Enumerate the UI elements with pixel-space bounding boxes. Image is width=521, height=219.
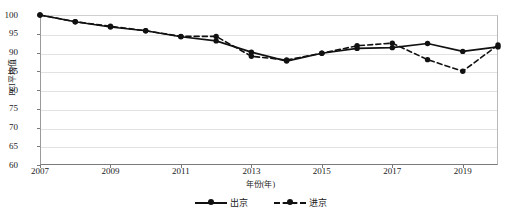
- x-tick-mark: [40, 165, 41, 168]
- legend-item-2[interactable]: 进京: [274, 196, 327, 209]
- x-axis-title: 年份(年): [0, 178, 521, 189]
- gridline: [41, 91, 497, 92]
- gridline: [41, 35, 497, 36]
- x-tick-mark: [463, 165, 464, 168]
- plot-area: [40, 15, 498, 165]
- y-tick-label: 65: [0, 142, 18, 151]
- gridline: [41, 147, 497, 148]
- x-tick-label: 2009: [88, 167, 132, 176]
- y-tick-label: 80: [0, 86, 18, 95]
- gridline: [41, 110, 497, 111]
- y-tick-label: 95: [0, 29, 18, 38]
- y-tick-mark: [37, 71, 40, 72]
- y-tick-mark: [37, 15, 40, 16]
- x-tick-mark: [110, 165, 111, 168]
- legend-label: 出京: [230, 196, 248, 209]
- x-tick-label: 2017: [370, 167, 414, 176]
- y-tick-mark: [37, 109, 40, 110]
- x-tick-mark: [392, 165, 393, 168]
- x-tick-label: 2011: [159, 167, 203, 176]
- x-tick-mark: [251, 165, 252, 168]
- x-tick-label: 2013: [229, 167, 273, 176]
- gridline: [41, 54, 497, 55]
- y-tick-mark: [37, 146, 40, 147]
- y-tick-mark: [37, 34, 40, 35]
- pci-line-chart: PCI平均值 6065707580859095100 2007200920112…: [0, 0, 521, 219]
- legend-item-1[interactable]: 出京: [195, 196, 248, 209]
- chart-legend: 出京进京: [0, 196, 521, 209]
- y-tick-label: 90: [0, 48, 18, 57]
- y-tick-label: 60: [0, 161, 18, 170]
- legend-line-icon: [195, 198, 227, 208]
- x-tick-mark: [322, 165, 323, 168]
- gridline: [41, 129, 497, 130]
- x-tick-label: 2015: [300, 167, 344, 176]
- y-tick-mark: [37, 90, 40, 91]
- x-tick-mark: [181, 165, 182, 168]
- y-tick-label: 75: [0, 104, 18, 113]
- y-tick-mark: [37, 53, 40, 54]
- x-tick-label: 2019: [441, 167, 485, 176]
- x-tick-label: 2007: [18, 167, 62, 176]
- legend-line-icon: [274, 198, 306, 208]
- y-tick-label: 100: [0, 11, 18, 20]
- y-tick-label: 85: [0, 67, 18, 76]
- legend-label: 进京: [309, 196, 327, 209]
- gridline: [41, 72, 497, 73]
- y-tick-label: 70: [0, 123, 18, 132]
- y-tick-mark: [37, 128, 40, 129]
